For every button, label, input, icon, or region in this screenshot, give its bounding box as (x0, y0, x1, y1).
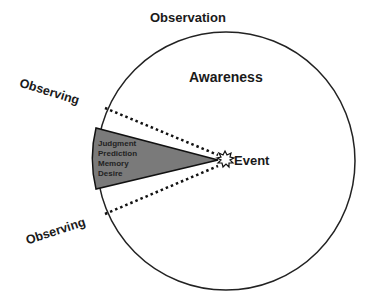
wedge-items: Judgment Prediction Memory Desire (98, 139, 137, 179)
event-label: Event (234, 153, 269, 168)
awareness-label: Awareness (189, 69, 263, 85)
wedge-item-desire: Desire (98, 169, 137, 179)
wedge-item-judgment: Judgment (98, 139, 137, 149)
diagram-title: Observation (150, 10, 226, 25)
wedge-item-memory: Memory (98, 159, 137, 169)
observation-diagram (0, 0, 370, 306)
wedge-item-prediction: Prediction (98, 149, 137, 159)
